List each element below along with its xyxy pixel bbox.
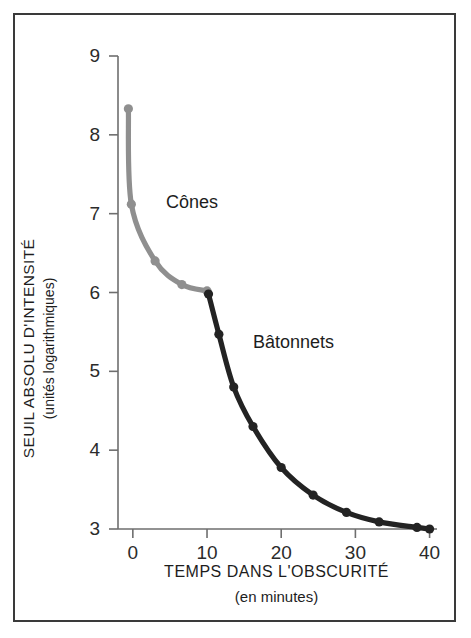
x-tick-label: 10: [185, 543, 229, 562]
series-markers: [124, 104, 434, 533]
data-point-btonnets: [248, 422, 257, 431]
data-point-btonnets: [277, 463, 286, 472]
x-axis-title-line1: TEMPS DANS L'OBSCURITÉ: [104, 563, 449, 581]
data-point-cnes: [124, 104, 133, 113]
data-point-btonnets: [204, 289, 213, 298]
y-tick-label: 9: [78, 46, 100, 65]
data-point-btonnets: [229, 383, 238, 392]
chart-plot-area: [0, 0, 471, 638]
x-tick-label: 40: [408, 543, 452, 562]
x-tick-label: 20: [259, 543, 303, 562]
data-point-btonnets: [342, 508, 351, 517]
x-axis-title-line2: (en minutes): [104, 588, 449, 605]
y-tick-label: 7: [78, 204, 100, 223]
x-axis-title: TEMPS DANS L'OBSCURITÉ (en minutes): [104, 563, 449, 605]
data-point-cnes: [127, 200, 136, 209]
x-tick-label: 30: [333, 543, 377, 562]
y-tick-label: 4: [78, 440, 100, 459]
data-point-btonnets: [425, 524, 434, 533]
series-label-batonnets: Bâtonnets: [253, 332, 334, 353]
data-point-btonnets: [309, 491, 318, 500]
tick-marks: [109, 56, 430, 538]
data-point-btonnets: [412, 523, 421, 532]
x-tick-label: 0: [111, 543, 155, 562]
y-tick-label: 6: [78, 283, 100, 302]
data-point-cnes: [177, 280, 186, 289]
axis-lines: [118, 56, 437, 529]
y-tick-label: 3: [78, 519, 100, 538]
data-point-btonnets: [214, 330, 223, 339]
y-tick-label: 5: [78, 361, 100, 380]
data-point-cnes: [150, 256, 159, 265]
series-label-cones: Cônes: [166, 192, 218, 213]
series-line-btonnets: [209, 294, 430, 529]
y-tick-label: 8: [78, 125, 100, 144]
data-point-btonnets: [375, 517, 384, 526]
